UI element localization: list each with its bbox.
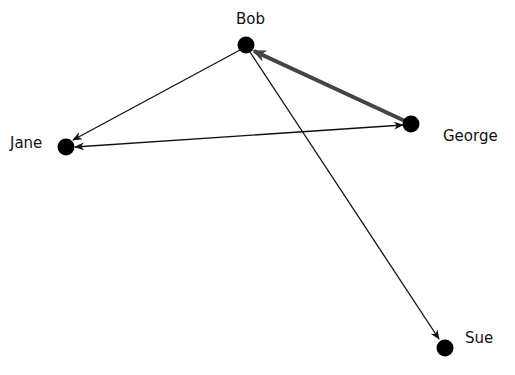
network-diagram: Bob Jane George Sue	[0, 0, 515, 375]
edge-george-jane	[75, 125, 403, 147]
edge-george-bob	[254, 51, 405, 121]
label-george: George	[443, 127, 498, 145]
edge-bob-jane	[73, 50, 240, 140]
node-bob	[238, 37, 255, 54]
graph-svg	[0, 0, 515, 375]
label-jane: Jane	[10, 134, 42, 152]
label-bob: Bob	[236, 10, 265, 28]
node-jane	[58, 139, 75, 156]
label-sue: Sue	[465, 329, 493, 347]
node-sue	[437, 340, 454, 357]
node-george	[403, 116, 420, 133]
